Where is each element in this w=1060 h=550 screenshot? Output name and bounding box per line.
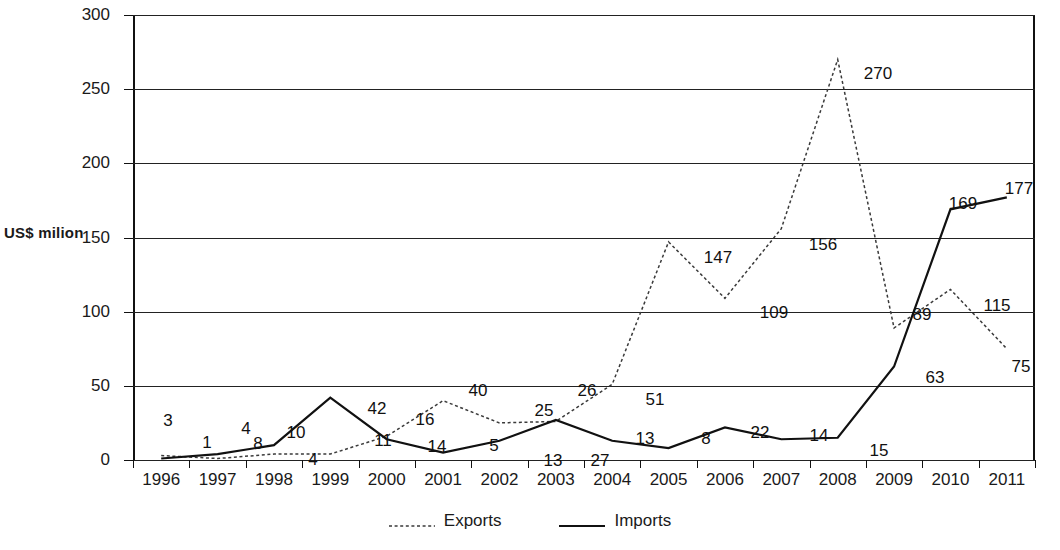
- data-label: 13: [530, 451, 576, 471]
- data-label: 42: [354, 399, 400, 419]
- x-tick-label-2004: 2004: [582, 470, 642, 490]
- x-tick-mark-1998: [246, 460, 247, 468]
- data-label: 156: [800, 235, 846, 255]
- y-tick-label-250: 250: [64, 79, 110, 99]
- y-tick-label-200: 200: [64, 153, 110, 173]
- x-tick-mark-2005: [640, 460, 641, 468]
- data-label: 11: [360, 431, 406, 451]
- x-tick-label-1996: 1996: [131, 470, 191, 490]
- dashed-line-swatch: [389, 516, 435, 526]
- data-label: 115: [974, 296, 1020, 316]
- x-tick-mark-2001: [415, 460, 416, 468]
- legend-item-imports[interactable]: Imports: [559, 512, 671, 529]
- data-label: 147: [695, 248, 741, 268]
- y-tick-mark-150: [124, 238, 133, 239]
- y-tick-mark-0: [124, 460, 133, 461]
- x-tick-label-2010: 2010: [920, 470, 980, 490]
- solid-line-swatch: [559, 516, 605, 526]
- data-label: 5: [471, 436, 517, 456]
- data-label: 89: [899, 305, 945, 325]
- data-label: 51: [632, 390, 678, 410]
- legend-label: Exports: [444, 512, 502, 529]
- y-tick-mark-50: [124, 386, 133, 387]
- data-label: 22: [737, 423, 783, 443]
- y-tick-mark-100: [124, 312, 133, 313]
- y-tick-label-50: 50: [64, 376, 110, 396]
- x-tick-mark-2002: [471, 460, 472, 468]
- data-label: 13: [622, 429, 668, 449]
- data-label: 63: [912, 368, 958, 388]
- x-tick-label-2000: 2000: [357, 470, 417, 490]
- data-label: 26: [564, 381, 610, 401]
- x-tick-mark-2011: [979, 460, 980, 468]
- x-tick-label-2009: 2009: [864, 470, 924, 490]
- data-label: 27: [577, 451, 623, 471]
- data-label: 10: [273, 423, 319, 443]
- y-tick-label-100: 100: [64, 302, 110, 322]
- data-label: 25: [521, 401, 567, 421]
- data-label: 15: [856, 441, 902, 461]
- data-label: 14: [796, 426, 842, 446]
- x-tick-label-2005: 2005: [639, 470, 699, 490]
- x-tick-label-2003: 2003: [526, 470, 586, 490]
- y-tick-label-300: 300: [64, 5, 110, 25]
- x-tick-label-2011: 2011: [977, 470, 1037, 490]
- y-tick-mark-300: [124, 15, 133, 16]
- x-tick-mark-1997: [189, 460, 190, 468]
- data-label: 177: [996, 179, 1042, 199]
- x-tick-label-2002: 2002: [469, 470, 529, 490]
- line-chart: US$ milion 050100150200250300 1996199719…: [0, 0, 1060, 550]
- y-axis-tick-labels: 050100150200250300: [60, 0, 110, 550]
- chart-legend: ExportsImports: [0, 512, 1060, 529]
- data-label: 270: [855, 64, 901, 84]
- x-tick-mark-2006: [697, 460, 698, 468]
- y-tick-mark-250: [124, 89, 133, 90]
- x-tick-mark-2010: [922, 460, 923, 468]
- x-tick-label-1998: 1998: [244, 470, 304, 490]
- x-tick-label-2007: 2007: [751, 470, 811, 490]
- x-tick-label-2001: 2001: [413, 470, 473, 490]
- data-label: 8: [683, 429, 729, 449]
- y-tick-mark-200: [124, 163, 133, 164]
- data-label: 4: [290, 450, 336, 470]
- data-label: 40: [455, 381, 501, 401]
- data-label: 109: [751, 303, 797, 323]
- data-label: 16: [402, 410, 448, 430]
- data-label: 169: [940, 194, 986, 214]
- imports-line: [161, 197, 1007, 458]
- x-tick-label-1999: 1999: [300, 470, 360, 490]
- data-label: 14: [414, 437, 460, 457]
- x-tick-mark-end: [1035, 460, 1036, 468]
- y-tick-label-0: 0: [64, 450, 110, 470]
- x-tick-label-2008: 2008: [808, 470, 868, 490]
- x-tick-label-1997: 1997: [188, 470, 248, 490]
- x-tick-mark-2007: [753, 460, 754, 468]
- data-label: 3: [145, 411, 191, 431]
- data-label: 75: [998, 357, 1044, 377]
- x-tick-mark-2008: [810, 460, 811, 468]
- x-tick-label-2006: 2006: [695, 470, 755, 490]
- x-tick-mark-2009: [866, 460, 867, 468]
- x-tick-mark-2000: [359, 460, 360, 468]
- y-tick-label-150: 150: [64, 228, 110, 248]
- legend-item-exports[interactable]: Exports: [389, 512, 502, 529]
- x-tick-mark-2003: [528, 460, 529, 468]
- x-tick-mark-1996: [133, 460, 134, 468]
- legend-label: Imports: [614, 512, 671, 529]
